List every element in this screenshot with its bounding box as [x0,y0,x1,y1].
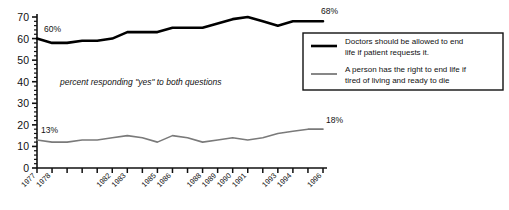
series-line-2 [37,129,323,142]
x-axis-tick-label-group: 1988 [185,171,203,189]
y-axis-tick-label: 70 [17,11,29,23]
legend-label-line1: Doctors should be allowed to end [345,37,463,46]
x-axis-tick-label: 1985 [140,171,158,189]
x-axis-tick-label-group: 1996 [305,171,323,189]
x-axis-tick-label: 1993 [260,171,278,189]
x-axis-tick-label: 1994 [275,171,293,189]
x-axis-tick-label: 1991 [230,171,248,189]
y-axis-tick-label: 20 [17,119,29,131]
x-axis-tick-label-group: 1990 [215,171,233,189]
series-2-start-label: 13% [41,125,58,135]
x-axis-tick-label-group: 1986 [155,171,173,189]
x-axis-tick-label-group: 1993 [260,171,278,189]
x-axis-tick-label: 1978 [34,171,52,189]
y-axis-tick-label: 40 [17,76,29,88]
legend-label-line1: A person has the right to end life if [345,65,467,74]
series-1-start-label: 60% [44,24,61,34]
x-axis-tick-label-group: 1978 [34,171,52,189]
x-axis-tick-label-group: 1989 [200,171,218,189]
x-axis-tick-label-group: 1994 [275,171,293,189]
x-axis-tick-label: 1988 [185,171,203,189]
y-axis-tick-label: 50 [17,54,29,66]
x-axis-tick-label-group: 1982 [95,171,113,189]
legend-label-line2: tired of living and ready to die [345,76,450,85]
y-axis-tick-label: 30 [17,97,29,109]
chart-canvas: 0102030405060701977197819821983198519861… [0,0,509,210]
x-axis-tick-label: 1982 [95,171,113,189]
y-axis-tick-label: 10 [17,140,29,152]
series-2-end-label: 18% [326,115,343,125]
x-axis-tick-label-group: 1977 [19,171,37,189]
x-axis-tick-label-group: 1985 [140,171,158,189]
x-axis-tick-label: 1990 [215,171,233,189]
series-1-end-label: 68% [321,6,338,16]
x-axis-tick-label: 1989 [200,171,218,189]
series-line-1 [37,17,323,43]
legend-label-line2: life if patient requests it. [345,48,429,57]
line-chart: 0102030405060701977197819821983198519861… [0,0,509,210]
x-axis-tick-label: 1983 [110,171,128,189]
y-axis-tick-label: 60 [17,33,29,45]
y-axis-tick-label: 0 [23,162,29,174]
x-axis-tick-label-group: 1991 [230,171,248,189]
chart-annotation: percent responding "yes" to both questio… [59,77,222,87]
x-axis-tick-label: 1986 [155,171,173,189]
x-axis-tick-label-group: 1983 [110,171,128,189]
x-axis-tick-label: 1977 [19,171,37,189]
x-axis-tick-label: 1996 [305,171,323,189]
